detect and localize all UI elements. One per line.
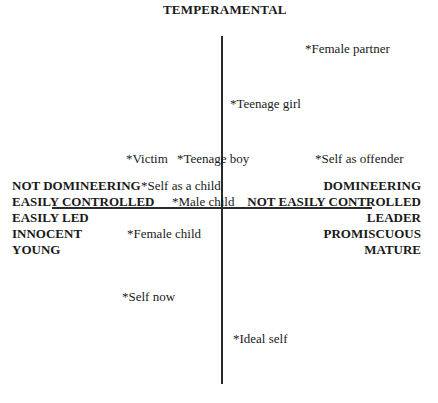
- right-pole-label: NOT EASILY CONTROLLED: [247, 194, 421, 210]
- point-female-child: *Female child: [127, 226, 201, 242]
- left-pole-label: EASILY LED: [12, 210, 89, 226]
- point-victim: *Victim: [126, 151, 168, 167]
- point-self-as-a-child: *Self as a child: [141, 178, 221, 194]
- point-female-partner: *Female partner: [305, 41, 390, 57]
- left-pole-label: NOT DOMINEERING: [12, 178, 141, 194]
- right-pole-label: DOMINEERING: [323, 178, 421, 194]
- right-pole-label: LEADER: [367, 210, 421, 226]
- right-pole-label: MATURE: [364, 242, 421, 258]
- left-pole-label: INNOCENT: [12, 226, 82, 242]
- point-self-now: *Self now: [122, 289, 175, 305]
- point-ideal-self: *Ideal self: [233, 331, 288, 347]
- right-pole-label: PROMISCUOUS: [323, 226, 421, 242]
- point-teenage-girl: *Teenage girl: [230, 96, 301, 112]
- top-pole-label: TEMPERAMENTAL: [163, 2, 287, 18]
- point-teenage-boy: *Teenage boy: [177, 151, 249, 167]
- point-self-as-offender: *Self as offender: [315, 151, 404, 167]
- point-male-child: *Male child: [172, 194, 234, 210]
- left-pole-label: YOUNG: [12, 242, 60, 258]
- vertical-axis: [221, 36, 223, 384]
- left-pole-label: EASILY CONTROLLED: [12, 194, 154, 210]
